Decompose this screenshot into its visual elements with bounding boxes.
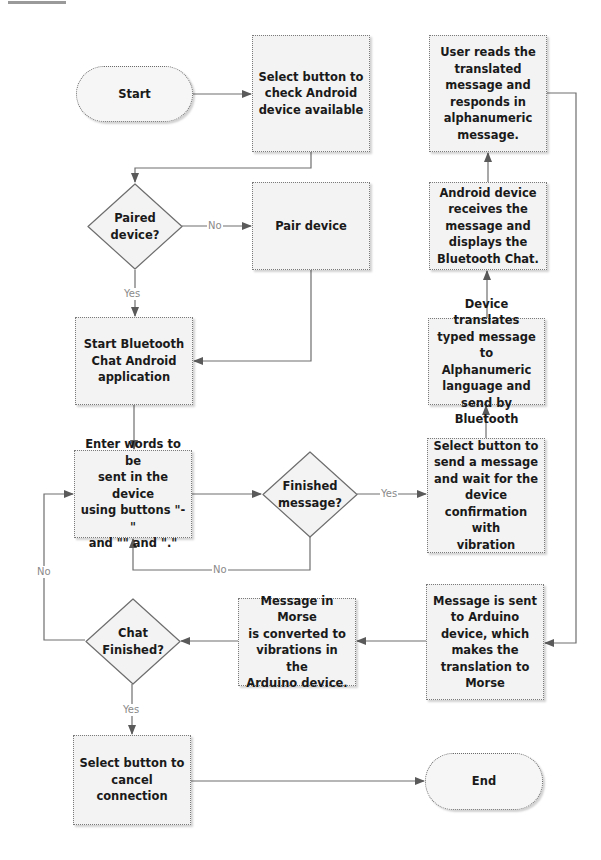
finished-message-label: Finished message? [262, 451, 358, 538]
pair-device-label: Pair device [275, 218, 347, 235]
pair-device-box: Pair device [252, 182, 370, 270]
edge-label-chat-yes: Yes [122, 704, 140, 716]
paired-device-decision: Paired device? [87, 183, 183, 270]
end-label: End [472, 773, 496, 790]
edge-label-chat-no: No [36, 566, 52, 578]
edge-label-paired-no: No [207, 220, 223, 232]
flowchart-canvas: No Yes Yes No No Yes Start Select button… [0, 0, 601, 860]
user-reads-box: User reads the translated message and re… [429, 35, 547, 152]
chat-finished-decision: Chat Finished? [85, 598, 181, 685]
select-check-device-box: Select button to check Android device av… [252, 35, 370, 152]
start-bluetooth-chat-label: Start Bluetooth Chat Android application [84, 336, 184, 386]
start-label: Start [118, 86, 151, 103]
morse-converted-label: Message in Morse is converted to vibrati… [244, 593, 350, 692]
edge-label-finished-no: No [212, 564, 228, 576]
start-bluetooth-chat-box: Start Bluetooth Chat Android application [75, 317, 193, 405]
android-receives-label: Android device receives the message and … [437, 185, 539, 268]
select-send-box: Select button to send a message and wait… [427, 438, 545, 553]
message-sent-label: Message is sent to Arduino device, which… [433, 593, 537, 692]
enter-words-box: Enter words to be sent in the device usi… [74, 450, 192, 538]
finished-message-decision: Finished message? [262, 451, 358, 538]
message-sent-box: Message is sent to Arduino device, which… [426, 584, 544, 700]
enter-words-label: Enter words to be sent in the device usi… [80, 436, 186, 552]
start-terminal: Start [76, 66, 193, 122]
user-reads-label: User reads the translated message and re… [440, 44, 535, 143]
edge-label-paired-yes: Yes [123, 288, 141, 300]
select-cancel-label: Select button to cancel connection [79, 755, 185, 805]
chat-finished-label: Chat Finished? [85, 598, 181, 685]
edge-label-finished-yes: Yes [380, 488, 398, 500]
paired-device-label: Paired device? [87, 183, 183, 270]
device-translates-label: Device translates typed message to Alpha… [434, 296, 539, 428]
android-receives-box: Android device receives the message and … [429, 182, 547, 270]
device-translates-box: Device translates typed message to Alpha… [428, 318, 545, 405]
select-send-label: Select button to send a message and wait… [433, 438, 539, 554]
select-check-device-label: Select button to check Android device av… [258, 69, 363, 119]
morse-converted-box: Message in Morse is converted to vibrati… [238, 598, 356, 686]
select-cancel-box: Select button to cancel connection [73, 735, 191, 825]
end-terminal: End [425, 753, 543, 810]
